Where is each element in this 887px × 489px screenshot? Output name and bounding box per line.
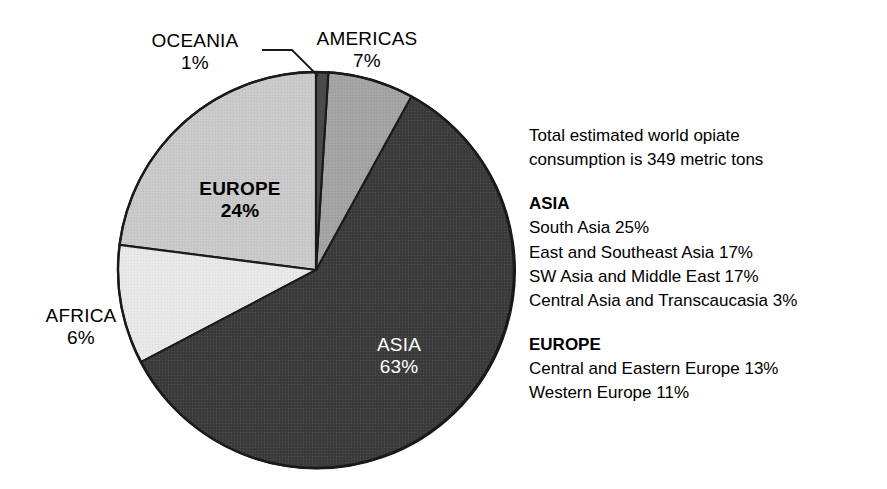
legend-summary-line-2: consumption is 349 metric tons xyxy=(529,148,879,172)
slice-label-americas: AMERICAS 7% xyxy=(292,28,442,73)
slice-label-europe-name: EUROPE xyxy=(160,178,320,200)
slice-label-africa-value: 6% xyxy=(16,327,146,349)
legend-summary-block: Total estimated world opiate consumption… xyxy=(529,124,879,172)
legend-asia-item: SW Asia and Middle East 17% xyxy=(529,265,879,289)
chart-legend: Total estimated world opiate consumption… xyxy=(529,124,879,405)
legend-europe-item: Western Europe 11% xyxy=(529,381,879,405)
slice-label-asia: ASIA 63% xyxy=(333,334,465,379)
legend-asia-item: South Asia 25% xyxy=(529,216,879,240)
legend-europe-heading: EUROPE xyxy=(529,333,879,357)
pie-slice-europe[interactable] xyxy=(120,72,317,270)
pie-chart-figure: OCEANIA 1% AMERICAS 7% AFRICA 6% EUROPE … xyxy=(0,0,887,489)
slice-label-africa-name: AFRICA xyxy=(16,305,146,327)
legend-europe-item: Central and Eastern Europe 13% xyxy=(529,357,879,381)
slice-label-europe: EUROPE 24% xyxy=(160,178,320,223)
slice-label-asia-name: ASIA xyxy=(333,334,465,356)
legend-asia-item: Central Asia and Transcaucasia 3% xyxy=(529,289,879,313)
slice-label-oceania-name: OCEANIA xyxy=(120,30,270,52)
legend-asia-block: ASIA South Asia 25% East and Southeast A… xyxy=(529,192,879,313)
slice-label-americas-value: 7% xyxy=(292,50,442,72)
legend-asia-heading: ASIA xyxy=(529,192,879,216)
legend-summary-line-1: Total estimated world opiate xyxy=(529,124,879,148)
slice-label-oceania: OCEANIA 1% xyxy=(120,30,270,75)
slice-label-africa: AFRICA 6% xyxy=(16,305,146,350)
slice-label-asia-value: 63% xyxy=(333,356,465,378)
legend-europe-block: EUROPE Central and Eastern Europe 13% We… xyxy=(529,333,879,405)
slice-label-europe-value: 24% xyxy=(160,200,320,222)
slice-label-oceania-value: 1% xyxy=(120,52,270,74)
slice-label-americas-name: AMERICAS xyxy=(292,28,442,50)
legend-asia-item: East and Southeast Asia 17% xyxy=(529,241,879,265)
